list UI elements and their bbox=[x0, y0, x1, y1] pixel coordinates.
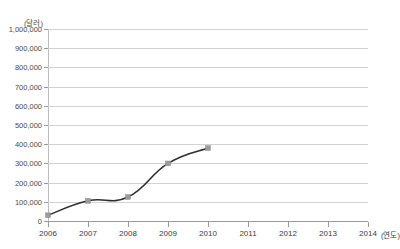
data-point-marker bbox=[46, 213, 51, 218]
series-line bbox=[48, 148, 208, 215]
data-point-marker bbox=[206, 146, 211, 151]
data-point-marker bbox=[166, 161, 171, 166]
data-point-marker bbox=[86, 198, 91, 203]
data-point-marker bbox=[126, 195, 131, 200]
